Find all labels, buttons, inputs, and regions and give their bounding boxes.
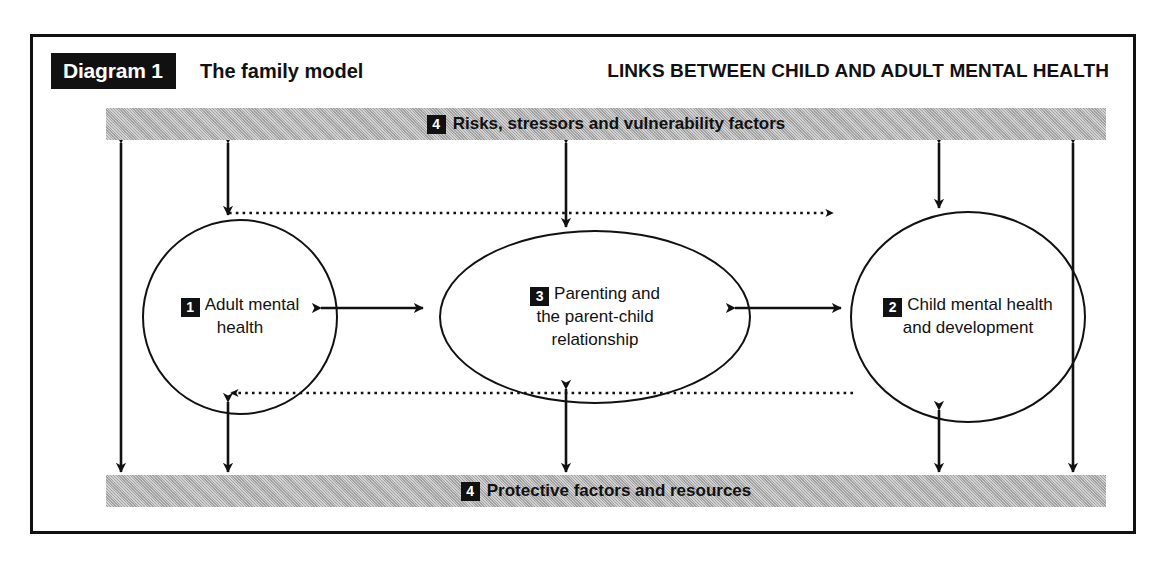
node-adult-text: 1Adult mental health [175,294,306,339]
node-parenting-text: 3Parenting and the parent-child relation… [524,283,666,350]
band-protective-number: 4 [461,482,480,501]
band-risks-text: Risks, stressors and vulnerability facto… [453,114,786,134]
node-child-line1: Child mental health [907,295,1053,314]
node-child-mental-health: 2Child mental health and development [850,211,1086,423]
node-adult-number: 1 [181,298,200,317]
node-adult-line2: health [217,318,263,337]
node-parenting-number: 3 [530,287,549,306]
header-subtitle: LINKS BETWEEN CHILD AND ADULT MENTAL HEA… [607,53,1109,89]
node-parenting-line2: the parent-child [536,307,653,326]
node-parenting-line1: Parenting and [554,284,660,303]
diagram-frame: Diagram 1 The family model LINKS BETWEEN… [30,34,1136,534]
page-title: The family model [200,53,363,89]
node-child-text: 2Child mental health and development [877,294,1059,339]
band-risks-number: 4 [427,115,446,134]
node-parenting-line3: relationship [552,330,639,349]
band-protective-label: 4 Protective factors and resources [461,481,752,501]
band-protective: 4 Protective factors and resources [106,475,1106,507]
node-adult-mental-health: 1Adult mental health [142,219,338,415]
band-risks-label: 4 Risks, stressors and vulnerability fac… [427,114,786,134]
node-child-number: 2 [883,298,902,317]
node-adult-line1: Adult mental [205,295,300,314]
node-child-line2: and development [903,318,1033,337]
diagram-header: Diagram 1 The family model LINKS BETWEEN… [33,53,1133,89]
band-risks: 4 Risks, stressors and vulnerability fac… [106,108,1106,140]
diagram-page: Diagram 1 The family model LINKS BETWEEN… [0,0,1169,562]
diagram-number-badge: Diagram 1 [51,53,176,89]
band-protective-text: Protective factors and resources [487,481,752,501]
node-parenting-relationship: 3Parenting and the parent-child relation… [439,230,751,404]
